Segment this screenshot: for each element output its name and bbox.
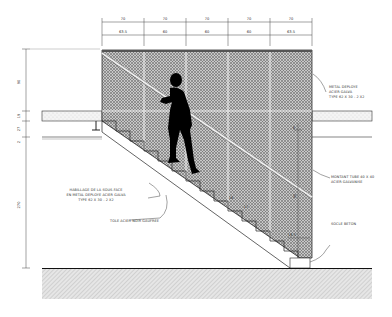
top-dim-lower-2: 60 — [163, 30, 168, 34]
left-dimension-chain — [22, 49, 100, 268]
top-dim-lower-1: 63.5 — [119, 30, 127, 34]
upper-floor-slab-left — [42, 111, 102, 139]
top-dim-upper-3: 70 — [205, 17, 210, 21]
svg-text:SOCLE BETON: SOCLE BETON — [331, 222, 357, 226]
concrete-base — [290, 258, 310, 268]
left-dim-1: 90 — [17, 79, 21, 84]
top-dim-lower-4: 60 — [247, 30, 252, 34]
inner-dim-mid: 90 — [293, 193, 297, 198]
svg-text:TYPE 62 X 30 - 2 X2: TYPE 62 X 30 - 2 X2 — [328, 95, 365, 99]
top-dim-lower-3: 60 — [205, 30, 210, 34]
svg-text:TOLE ACIER NOIR GAUFREE: TOLE ACIER NOIR GAUFREE — [109, 219, 159, 223]
svg-text:METAL DEPLOYE: METAL DEPLOYE — [329, 85, 358, 89]
left-dim-3: 27 — [17, 127, 21, 132]
top-dim-upper-4: 70 — [247, 17, 252, 21]
note-mesh-panel: METAL DEPLOYE ACIER GALVA TYPE 62 X 30 -… — [328, 85, 365, 99]
stair-section-drawing: 70 70 70 70 70 63.5 60 60 60 63.5 90 19 … — [0, 0, 392, 317]
left-dim-5: 270 — [17, 201, 21, 209]
note-base: SOCLE BETON — [331, 222, 357, 226]
svg-text:ACIER GALVANISE: ACIER GALVANISE — [331, 180, 362, 184]
note-post: MONTANT TUBE 40 X 40 ACIER GALVANISE — [331, 175, 374, 184]
svg-text:TYPE 62 X 30 - 2 X2: TYPE 62 X 30 - 2 X2 — [77, 198, 114, 202]
svg-text:ACIER GALVA: ACIER GALVA — [329, 90, 353, 94]
inner-dim-lower: 16.5 — [288, 233, 296, 237]
top-dim-upper-1: 70 — [121, 17, 126, 21]
top-dim-upper-5: 70 — [289, 17, 294, 21]
upper-floor-slab-right — [312, 111, 372, 137]
svg-text:HABILLAGE DE LA SOUS-FACE: HABILLAGE DE LA SOUS-FACE — [70, 188, 123, 192]
note-tread: TOLE ACIER NOIR GAUFREE — [109, 219, 159, 223]
left-dim-2: 19 — [17, 113, 21, 118]
top-dim-lower-5: 63.5 — [287, 30, 295, 34]
note-soffit: HABILLAGE DE LA SOUS-FACE EN METAL DEPLO… — [66, 188, 126, 202]
svg-text:MONTANT TUBE 40 X 40: MONTANT TUBE 40 X 40 — [331, 175, 374, 179]
step-dim-a: 16 — [229, 196, 234, 200]
ground-section — [42, 269, 372, 300]
svg-text:EN METAL DEPLOYE ACIER GALVA: EN METAL DEPLOYE ACIER GALVA — [66, 193, 126, 197]
left-dim-4: 2 — [17, 141, 21, 143]
step-dim-b: 17 — [244, 205, 249, 209]
top-dim-upper-2: 70 — [163, 17, 168, 21]
